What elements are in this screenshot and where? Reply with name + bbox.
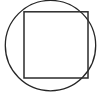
figure-canvas: Circle with inscribed square bbox=[0, 0, 101, 95]
geometry-figure bbox=[0, 0, 101, 95]
figure-background bbox=[0, 0, 101, 95]
